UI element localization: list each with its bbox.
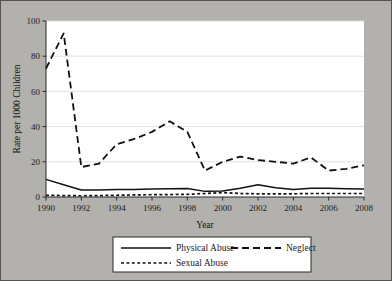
y-tick-label: 60 xyxy=(31,87,41,97)
y-tick-label: 100 xyxy=(27,16,41,26)
x-tick-label: 1990 xyxy=(37,203,56,213)
x-tick-label: 1994 xyxy=(108,203,127,213)
y-tick-label: 0 xyxy=(36,192,41,202)
x-tick-label: 2002 xyxy=(249,203,267,213)
y-tick-label: 80 xyxy=(31,51,41,61)
x-tick-label: 1998 xyxy=(178,203,197,213)
y-axis-title: Rate per 1000 Children xyxy=(12,64,22,153)
y-axis-tick-labels: 020406080100 xyxy=(27,16,41,202)
legend-label-physical-abuse: Physical Abuse xyxy=(176,243,234,253)
chart-legend: Physical AbuseNeglectSexual Abuse xyxy=(113,237,316,272)
x-axis-title: Year xyxy=(196,220,214,230)
x-tick-label: 2006 xyxy=(320,203,339,213)
x-tick-label: 2000 xyxy=(214,203,233,213)
y-axis-ticks xyxy=(43,21,47,197)
legend-label-neglect: Neglect xyxy=(286,243,316,253)
line-chart: 020406080100 199019921994199619982000200… xyxy=(1,1,392,281)
y-tick-label: 20 xyxy=(31,157,41,167)
x-tick-label: 2004 xyxy=(284,203,303,213)
chart-figure: 020406080100 199019921994199619982000200… xyxy=(0,0,392,281)
x-tick-label: 1996 xyxy=(143,203,162,213)
x-axis-ticks xyxy=(46,197,364,201)
x-tick-label: 2008 xyxy=(355,203,374,213)
plot-area-background xyxy=(46,21,364,197)
y-tick-label: 40 xyxy=(31,122,41,132)
legend-label-sexual-abuse: Sexual Abuse xyxy=(176,258,228,268)
x-tick-label: 1992 xyxy=(72,203,90,213)
x-axis-tick-labels: 1990199219941996199820002002200420062008 xyxy=(37,203,374,213)
